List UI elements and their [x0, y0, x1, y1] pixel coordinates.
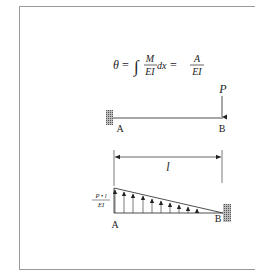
equals-sign: =: [122, 58, 129, 72]
max-value-numerator: P • l: [94, 192, 106, 199]
dx-term: dx: [157, 60, 167, 71]
diagram-slope-line: [114, 188, 223, 213]
slope-equation: θ = ∫ M EI dx = A EI: [113, 53, 204, 77]
diagram-canvas: θ = ∫ M EI dx = A EI P A B l: [0, 0, 255, 276]
diagram-point-a-label: A: [111, 219, 119, 230]
diagram-point-b-label: B: [215, 213, 222, 224]
cantilever-beam: P A B: [106, 82, 227, 134]
length-dimension: l: [114, 150, 222, 186]
theta-symbol: θ: [113, 58, 119, 72]
fraction-numerator-m: M: [145, 53, 155, 64]
point-a-label: A: [116, 123, 124, 134]
fixed-support-right: [223, 204, 231, 222]
m-ei-diagram: P • l EI A B: [92, 188, 231, 230]
max-value-denominator: EI: [97, 201, 105, 208]
fixed-support-left: [106, 110, 113, 125]
load-label: P: [218, 82, 227, 96]
dimension-label: l: [166, 160, 170, 174]
fraction-denominator-ei-2: EI: [191, 66, 202, 77]
fraction-numerator-a: A: [193, 53, 201, 64]
integral-sign: ∫: [133, 57, 140, 77]
point-b-label: B: [219, 123, 226, 134]
fraction-denominator-ei: EI: [144, 66, 155, 77]
equals-sign-2: =: [170, 58, 177, 72]
distributed-load-arrows: [115, 190, 197, 213]
